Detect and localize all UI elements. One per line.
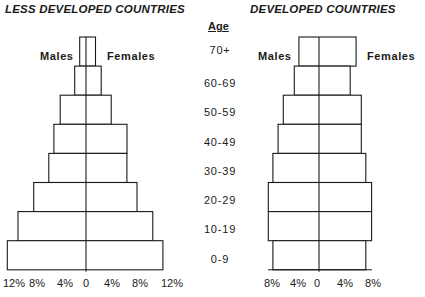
bar-60-69 <box>75 66 102 95</box>
x-tick-label: 0 <box>314 277 320 289</box>
age-group-label: 70+ <box>209 44 230 56</box>
bar-20-29 <box>268 183 371 212</box>
x-tick-label: 4% <box>337 277 353 289</box>
x-tick-label: 8% <box>264 277 280 289</box>
bar-10-19 <box>268 212 371 241</box>
x-tick-label: 12% <box>161 277 183 289</box>
x-tick-label: 4% <box>57 277 73 289</box>
age-group-label: 0-9 <box>211 253 229 265</box>
bar-10-19 <box>18 212 153 241</box>
bar-20-29 <box>34 183 137 212</box>
x-tick-label: 0 <box>83 277 89 289</box>
age-group-label: 50-59 <box>204 106 236 118</box>
bar-40-49 <box>278 124 361 153</box>
bar-60-69 <box>294 66 350 95</box>
age-group-label: 20-29 <box>204 194 236 206</box>
bar-70plus <box>299 37 356 66</box>
x-tick-label: 8% <box>29 277 45 289</box>
age-group-label: 30-39 <box>204 165 236 177</box>
bar-40-49 <box>54 124 127 153</box>
bar-0-9 <box>7 241 163 270</box>
age-group-label: 10-19 <box>204 223 236 235</box>
x-tick-label: 8% <box>365 277 381 289</box>
x-tick-label: 8% <box>132 277 148 289</box>
bar-30-39 <box>49 153 127 182</box>
bar-70plus <box>80 37 96 66</box>
x-tick-label: 4% <box>104 277 120 289</box>
x-tick-label: 4% <box>290 277 306 289</box>
bar-50-59 <box>283 95 361 124</box>
x-tick-label: 12% <box>3 277 25 289</box>
age-group-label: 60-69 <box>204 77 236 89</box>
age-group-label: 40-49 <box>204 136 236 148</box>
